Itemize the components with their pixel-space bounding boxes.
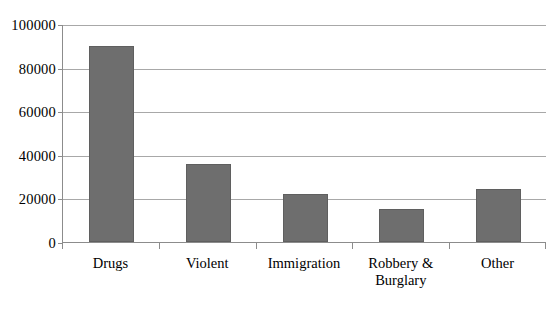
x-axis-category-label-line: Immigration xyxy=(256,255,353,272)
plot-area xyxy=(62,25,546,243)
bar xyxy=(476,189,521,242)
y-axis-tick-label: 20000 xyxy=(19,191,56,208)
y-axis-tick-label: 80000 xyxy=(19,60,56,77)
y-axis-tick-label: 100000 xyxy=(11,17,56,34)
gridline xyxy=(63,69,546,70)
y-axis-tick xyxy=(58,156,63,157)
gridline xyxy=(63,25,546,26)
gridline xyxy=(63,156,546,157)
x-axis-category-label: Other xyxy=(449,255,546,272)
x-axis-category-label-line: Other xyxy=(449,255,546,272)
gridline xyxy=(63,112,546,113)
x-axis-tick xyxy=(62,243,63,249)
y-axis-tick xyxy=(58,112,63,113)
y-axis-tick-label: 40000 xyxy=(19,147,56,164)
bar xyxy=(186,164,231,242)
x-axis-tick xyxy=(159,243,160,249)
x-axis-category-label-line: Burglary xyxy=(352,272,449,289)
y-axis-tick xyxy=(58,69,63,70)
y-axis-tick-label: 60000 xyxy=(19,104,56,121)
x-axis-category-label-line: Drugs xyxy=(62,255,159,272)
x-axis-category-label: Violent xyxy=(159,255,256,272)
y-axis-tick xyxy=(58,25,63,26)
x-axis-category-label-line: Violent xyxy=(159,255,256,272)
y-axis-tick-labels: 020000400006000080000100000 xyxy=(0,0,56,311)
bar xyxy=(379,209,424,242)
y-axis-tick-label: 0 xyxy=(49,235,56,252)
bar xyxy=(89,46,134,242)
x-axis-tick xyxy=(449,243,450,249)
x-axis-category-label: Immigration xyxy=(256,255,353,272)
bar-chart-screenshot: 020000400006000080000100000 DrugsViolent… xyxy=(0,0,558,311)
x-axis-tick xyxy=(352,243,353,249)
x-axis-tick xyxy=(545,243,546,249)
x-axis-category-labels: DrugsViolentImmigrationRobbery &Burglary… xyxy=(62,255,546,301)
x-axis-category-label: Drugs xyxy=(62,255,159,272)
y-axis-tick xyxy=(58,199,63,200)
x-axis-category-label-line: Robbery & xyxy=(352,255,449,272)
bar xyxy=(283,194,328,242)
x-axis-category-label: Robbery &Burglary xyxy=(352,255,449,289)
x-axis-ticks xyxy=(62,243,546,251)
x-axis-tick xyxy=(256,243,257,249)
